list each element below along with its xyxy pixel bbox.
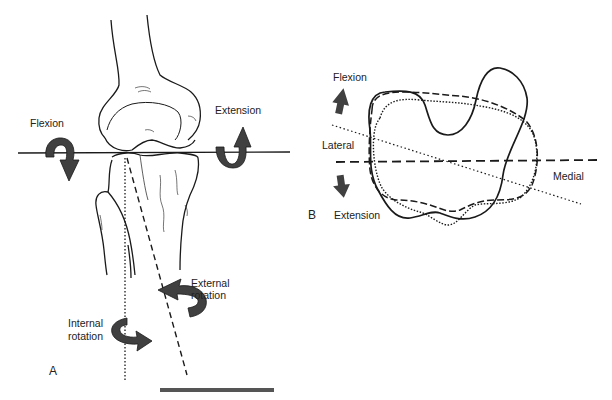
flexion-up-arrow-icon bbox=[330, 87, 352, 116]
medial-label: Medial bbox=[553, 170, 584, 182]
tibia-fibula-drawing bbox=[96, 153, 199, 278]
lateral-label: Lateral bbox=[322, 139, 354, 151]
extension-rotation-arrow-icon bbox=[216, 127, 251, 168]
joint-line bbox=[18, 152, 290, 153]
contour-solid bbox=[369, 68, 527, 219]
internal-rotation-arrow-icon bbox=[112, 318, 152, 351]
oblique-axis-dotted bbox=[332, 125, 581, 204]
external-rotation-label-line1: External bbox=[191, 277, 230, 289]
scale-bar bbox=[160, 388, 274, 392]
flexion-label-a: Flexion bbox=[30, 117, 64, 129]
external-rotation-label-line2: rotation bbox=[191, 289, 226, 301]
flexion-rotation-arrow-icon bbox=[46, 138, 79, 181]
internal-rotation-label-line2: rotation bbox=[68, 330, 103, 342]
extension-down-arrow-icon bbox=[332, 174, 352, 199]
internal-rotation-label-line1: Internal bbox=[68, 317, 103, 329]
contour-dashed bbox=[369, 92, 537, 211]
flexion-label-b: Flexion bbox=[333, 71, 367, 83]
femur-drawing bbox=[99, 15, 200, 151]
panel-a-letter: A bbox=[49, 364, 57, 378]
extension-label-a: Extension bbox=[215, 104, 261, 116]
knee-kinematics-figure: Flexion Extension External rotation Inte… bbox=[0, 0, 612, 400]
extension-label-b: Extension bbox=[334, 209, 380, 221]
panel-b-letter: B bbox=[308, 208, 316, 222]
